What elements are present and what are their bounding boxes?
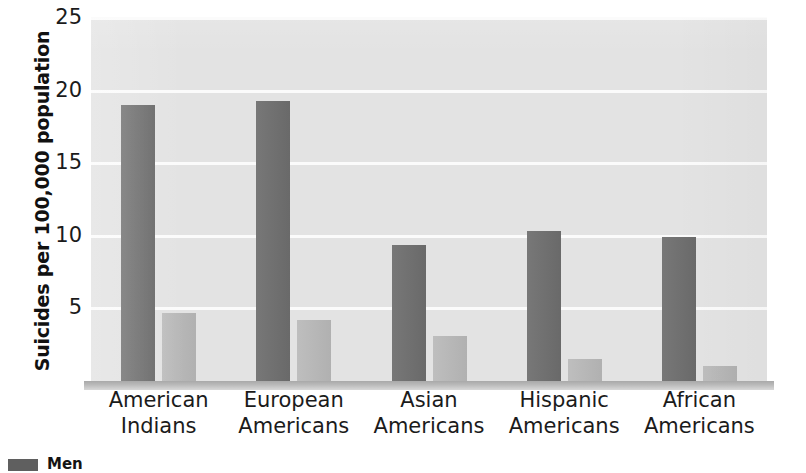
x-axis-label-hispanic-americans: HispanicAmericans (497, 388, 632, 439)
y-axis-tick-labels: 510152025 (30, 0, 82, 400)
x-label-line: Asian (361, 388, 496, 414)
x-label-line: African (632, 388, 767, 414)
bar-men-hispanic-americans (527, 231, 561, 381)
chart-legend: Men (8, 457, 83, 472)
x-axis-label-african-americans: AfricanAmericans (632, 388, 767, 439)
bar-men-american-indians (121, 105, 155, 381)
x-axis-category-labels: AmericanIndiansEuropeanAmericansAsianAme… (91, 388, 767, 448)
x-label-line: Americans (632, 414, 767, 440)
gridline (91, 162, 767, 165)
y-tick-label-15: 15 (36, 152, 82, 173)
y-tick-label-25: 25 (36, 7, 82, 28)
plot-area (91, 18, 767, 381)
bar-women-european-americans (297, 320, 331, 381)
y-tick-label-20: 20 (36, 80, 82, 101)
x-label-line: American (91, 388, 226, 414)
bar-men-european-americans (256, 101, 290, 381)
legend-label: Men (47, 457, 83, 472)
bar-women-hispanic-americans (568, 359, 602, 381)
gridline (91, 90, 767, 93)
x-label-line: Americans (226, 414, 361, 440)
bar-women-american-indians (162, 313, 196, 381)
x-axis-label-american-indians: AmericanIndians (91, 388, 226, 439)
y-tick-label-5: 5 (36, 297, 82, 318)
x-label-line: European (226, 388, 361, 414)
x-label-line: Indians (91, 414, 226, 440)
bar-men-asian-americans (392, 245, 426, 381)
x-label-line: Americans (361, 414, 496, 440)
legend-item-men[interactable]: Men (8, 457, 83, 472)
x-label-line: Hispanic (497, 388, 632, 414)
bar-women-african-americans (703, 366, 737, 381)
x-label-line: Americans (497, 414, 632, 440)
bar-men-african-americans (662, 237, 696, 381)
bar-women-asian-americans (433, 336, 467, 381)
x-axis-label-european-americans: EuropeanAmericans (226, 388, 361, 439)
x-axis-label-asian-americans: AsianAmericans (361, 388, 496, 439)
y-tick-label-10: 10 (36, 225, 82, 246)
gridline (91, 17, 767, 20)
legend-swatch-icon (8, 459, 38, 471)
